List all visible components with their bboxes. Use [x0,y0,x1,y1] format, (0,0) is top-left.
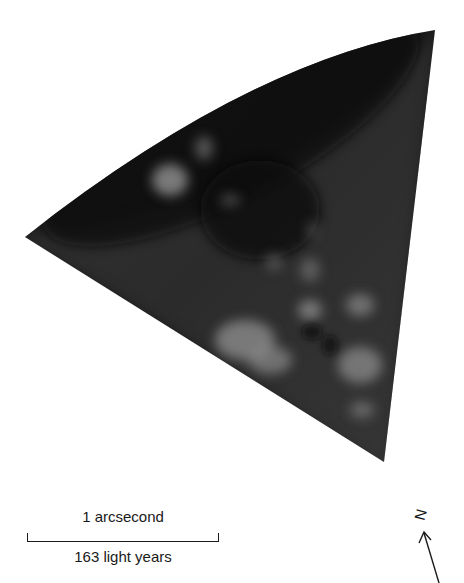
scale-bracket [27,533,219,542]
cone-image [0,0,464,480]
north-arrow-icon: N [400,500,464,583]
scale-angular-label: 1 arcsecond [27,508,219,525]
north-label: N [411,507,430,522]
scale-distance-label: 163 light years [27,548,219,565]
